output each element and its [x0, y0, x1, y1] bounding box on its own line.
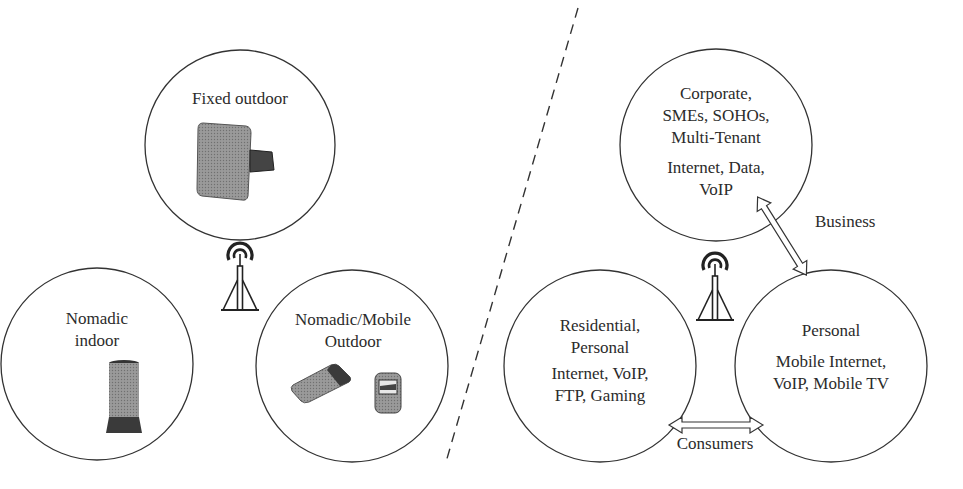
label-residential: Residential, Personal Internet, VoIP, FT…: [500, 315, 700, 407]
service-line: VoIP, Mobile TV: [731, 373, 931, 395]
segment-line: SMEs, SOHOs,: [616, 105, 816, 127]
service-line: VoIP: [616, 179, 816, 201]
label-line: Outdoor: [256, 331, 450, 353]
label-personal: Personal Mobile Internet, VoIP, Mobile T…: [731, 320, 931, 395]
label-corporate: Corporate, SMEs, SOHOs, Multi-Tenant Int…: [616, 83, 816, 201]
segment-line: Residential,: [500, 315, 700, 337]
consumers-label: Consumers: [665, 433, 765, 455]
label-line: Nomadic: [0, 308, 194, 330]
indoor-desktop-modem-icon: [106, 360, 142, 433]
label-nomadic-indoor: Nomadic indoor: [0, 308, 194, 352]
diagram-canvas: [0, 0, 963, 489]
service-line: FTP, Gaming: [500, 385, 700, 407]
service-line: Mobile Internet,: [731, 351, 931, 373]
segment-line: Corporate,: [616, 83, 816, 105]
pda-handheld-icon: [375, 373, 401, 413]
radio-tower-icon: [221, 243, 259, 310]
label-fixed-outdoor: Fixed outdoor: [140, 88, 340, 110]
business-label: Business: [815, 211, 905, 233]
service-line: Internet, VoIP,: [500, 363, 700, 385]
label-line: indoor: [0, 330, 194, 352]
label-line: Fixed outdoor: [140, 88, 340, 110]
pc-card-modem-icon: [291, 364, 350, 403]
circle-nomadic-mobile-outdoor: [256, 270, 448, 462]
segment-line: Personal: [731, 320, 931, 342]
segment-line: Personal: [500, 337, 700, 359]
segment-line: Multi-Tenant: [616, 127, 816, 149]
business-double-arrow: [751, 193, 813, 279]
outdoor-cpe-antenna-icon: [197, 123, 274, 200]
label-nomadic-mobile-outdoor: Nomadic/Mobile Outdoor: [256, 309, 450, 353]
label-line: Nomadic/Mobile: [256, 309, 450, 331]
consumers-double-arrow: [669, 417, 763, 433]
service-line: Internet, Data,: [616, 157, 816, 179]
circle-nomadic-indoor: [1, 268, 193, 460]
radio-tower-icon: [696, 253, 734, 320]
